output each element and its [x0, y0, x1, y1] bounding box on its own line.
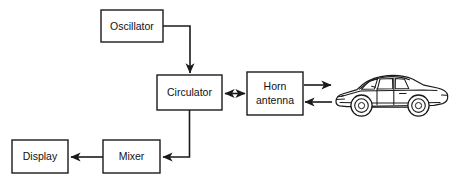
- connector-oscillator-to-circulator: [163, 26, 190, 73]
- block-oscillator[interactable]: Oscillator: [101, 10, 163, 42]
- connector-circulator-to-mixer: [163, 110, 190, 157]
- display-label: Display: [23, 150, 58, 162]
- horn-antenna-label-line2: antenna: [256, 94, 294, 106]
- oscillator-label: Oscillator: [110, 20, 154, 32]
- block-mixer[interactable]: Mixer: [103, 140, 160, 173]
- block-circulator[interactable]: Circulator: [157, 75, 222, 110]
- car-rear-hub: [415, 103, 421, 109]
- car-illustration: [336, 76, 448, 117]
- horn-antenna-label-line1: Horn: [264, 80, 287, 92]
- car-front-hub: [358, 103, 364, 109]
- diagram-canvas: Oscillator Circulator Horn antenna Mixer…: [0, 0, 452, 188]
- circulator-label: Circulator: [167, 86, 212, 98]
- radar-block-diagram: Oscillator Circulator Horn antenna Mixer…: [0, 0, 452, 188]
- block-display[interactable]: Display: [12, 140, 68, 173]
- mixer-label: Mixer: [119, 150, 145, 162]
- block-horn-antenna[interactable]: Horn antenna: [247, 72, 303, 115]
